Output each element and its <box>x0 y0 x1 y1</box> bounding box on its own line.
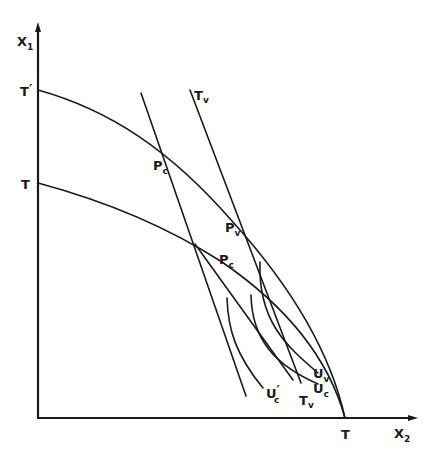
price-line-tv <box>190 90 301 383</box>
diagram: X1 X2 T′ T T Pc Pv Pc Tv Tv U′c Uc Uv <box>0 0 425 453</box>
outer-ppf-curve <box>38 90 345 418</box>
price-line-pc-prime <box>141 93 246 396</box>
uc-prime-label: U′c <box>266 382 281 405</box>
tv-line-top-label: Tv <box>194 88 209 105</box>
indifference-curve-uv <box>260 262 318 373</box>
outer-ppf-intercept-label: T′ <box>20 81 33 99</box>
point-pc-label: Pc <box>219 252 234 270</box>
y-axis-arrow-icon <box>35 22 41 32</box>
point-pc-prime-label: Pc <box>153 158 168 176</box>
x-intercept-label: T <box>341 427 350 442</box>
inner-ppf-curve <box>38 183 345 418</box>
tv-line-bottom-label: Tv <box>299 393 314 410</box>
x-axis-label: X2 <box>394 426 410 444</box>
point-pv-label: Pv <box>225 220 241 238</box>
inner-ppf-intercept-label: T <box>21 177 30 192</box>
y-axis-label: X1 <box>17 34 33 52</box>
indifference-curve-uc-prime <box>227 298 263 388</box>
x-axis-arrow-icon <box>408 415 418 421</box>
